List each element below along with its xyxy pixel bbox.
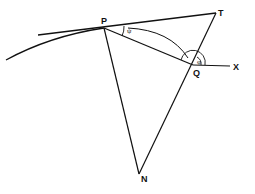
line-nt [139, 13, 216, 174]
angle-arc-psi [122, 26, 124, 36]
label-phi: φ [197, 58, 201, 66]
chord-pq [104, 28, 193, 65]
label-n: N [141, 174, 148, 184]
label-q: Q [193, 68, 200, 78]
arc-pq [128, 28, 188, 58]
label-t: T [218, 8, 224, 18]
label-psi: ψ [127, 27, 132, 35]
label-x: X [233, 62, 239, 72]
line-pn [104, 28, 139, 174]
geometry-diagram: P T Q X N ψ φ [0, 0, 255, 194]
label-p: P [101, 16, 107, 26]
